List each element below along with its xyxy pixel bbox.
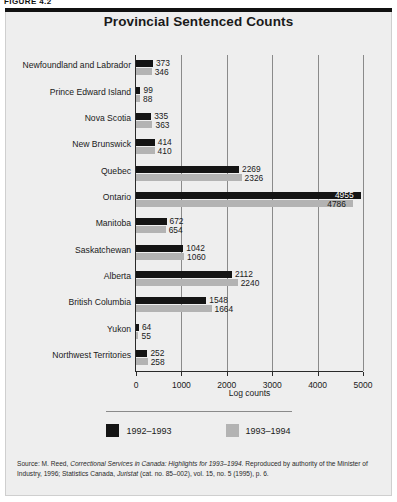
source-text: (cat. no. 85–002), vol. 15, no. 5 (1995)… bbox=[138, 470, 269, 477]
bar-value-label: 672 bbox=[170, 217, 184, 225]
x-tick bbox=[181, 372, 182, 376]
bar bbox=[136, 192, 361, 199]
bar bbox=[136, 68, 152, 75]
x-axis-line bbox=[135, 371, 363, 372]
bar bbox=[136, 324, 139, 331]
x-tick bbox=[363, 372, 364, 376]
bar bbox=[136, 87, 140, 94]
bar-value-label: 2326 bbox=[245, 174, 264, 182]
bar bbox=[136, 174, 242, 181]
chart-legend: 1992–19931993–1994 bbox=[0, 424, 397, 437]
category-label: Newfoundland and Labrador bbox=[0, 60, 131, 70]
category-label: Ontario bbox=[0, 192, 131, 202]
bar bbox=[136, 358, 148, 365]
source-note: Source: M. Reed, Correctional Services i… bbox=[17, 459, 375, 478]
bar bbox=[136, 60, 153, 67]
bar bbox=[136, 139, 155, 146]
source-text: Source: M. Reed, bbox=[17, 460, 70, 467]
bar bbox=[136, 95, 140, 102]
legend-label: 1993–1994 bbox=[246, 426, 291, 436]
bar-value-label: 55 bbox=[141, 332, 150, 340]
bar-group: Northwest Territories252258 bbox=[136, 350, 363, 366]
legend-item: 1993–1994 bbox=[226, 424, 291, 437]
bar-group: Ontario49554786 bbox=[136, 192, 363, 208]
bar-value-label: 4786 bbox=[327, 200, 346, 208]
bar-value-label: 1060 bbox=[187, 253, 206, 261]
source-title: Correctional Services in Canada: Highlig… bbox=[70, 460, 243, 467]
bar-value-label: 1664 bbox=[215, 305, 234, 313]
bar-value-label: 2240 bbox=[241, 279, 260, 287]
category-label: British Columbia bbox=[0, 297, 131, 307]
bar-group: New Brunswick414410 bbox=[136, 139, 363, 155]
bar-group: Yukon6455 bbox=[136, 324, 363, 340]
bar-group: Manitoba672654 bbox=[136, 218, 363, 234]
figure-caption: FIGURE 4.2 bbox=[4, 0, 52, 4]
gridline bbox=[363, 55, 364, 371]
legend-item: 1992–1993 bbox=[106, 424, 171, 437]
bar-value-label: 2269 bbox=[242, 165, 261, 173]
bar bbox=[136, 226, 166, 233]
category-label: Prince Edward Island bbox=[0, 87, 131, 97]
bar-value-label: 64 bbox=[142, 323, 151, 331]
bar-group: Quebec22692326 bbox=[136, 166, 363, 182]
bar bbox=[136, 271, 232, 278]
bar bbox=[136, 350, 147, 357]
category-label: Alberta bbox=[0, 271, 131, 281]
bar-group: Prince Edward Island9988 bbox=[136, 87, 363, 103]
bar-value-label: 258 bbox=[151, 358, 165, 366]
bar-value-label: 99 bbox=[143, 86, 152, 94]
bar-group: Alberta21122240 bbox=[136, 271, 363, 287]
x-tick bbox=[227, 372, 228, 376]
bar-value-label: 414 bbox=[158, 138, 172, 146]
bar-value-label: 373 bbox=[156, 59, 170, 67]
category-label: Nova Scotia bbox=[0, 113, 131, 123]
bar-value-label: 335 bbox=[154, 112, 168, 120]
bar bbox=[136, 113, 151, 120]
bar-group: British Columbia15481664 bbox=[136, 297, 363, 313]
legend-swatch bbox=[106, 424, 119, 437]
bar-value-label: 363 bbox=[155, 121, 169, 129]
x-tick bbox=[272, 372, 273, 376]
legend-divider bbox=[106, 411, 292, 412]
bar-value-label: 4955 bbox=[335, 191, 354, 199]
bar-value-label: 654 bbox=[169, 226, 183, 234]
chart-title: Provincial Sentenced Counts bbox=[0, 14, 397, 29]
bar-value-label: 2112 bbox=[235, 270, 253, 278]
x-axis-label: Log counts bbox=[136, 388, 363, 398]
category-label: Quebec bbox=[0, 166, 131, 176]
bar bbox=[136, 200, 353, 207]
bar bbox=[136, 166, 239, 173]
bar-value-label: 252 bbox=[150, 349, 164, 357]
bar bbox=[136, 305, 212, 312]
plot-area: 010002000300040005000Newfoundland and La… bbox=[136, 55, 363, 371]
bar-value-label: 88 bbox=[143, 95, 152, 103]
bar bbox=[136, 253, 184, 260]
panel-top-rule bbox=[5, 8, 392, 12]
category-label: Saskatchewan bbox=[0, 245, 131, 255]
bar bbox=[136, 245, 183, 252]
bar-value-label: 1042 bbox=[186, 244, 205, 252]
category-label: Manitoba bbox=[0, 218, 131, 228]
bar bbox=[136, 332, 138, 339]
source-title: Juristat bbox=[117, 470, 138, 477]
bar bbox=[136, 147, 155, 154]
bar bbox=[136, 279, 238, 286]
bar-value-label: 410 bbox=[158, 147, 172, 155]
bar bbox=[136, 218, 167, 225]
category-label: Northwest Territories bbox=[0, 350, 131, 360]
bar-group: Saskatchewan10421060 bbox=[136, 245, 363, 261]
bar-group: Nova Scotia335363 bbox=[136, 113, 363, 129]
bar-value-label: 346 bbox=[155, 68, 169, 76]
bar bbox=[136, 297, 206, 304]
x-tick bbox=[318, 372, 319, 376]
bar bbox=[136, 121, 152, 128]
legend-swatch bbox=[226, 424, 239, 437]
category-label: New Brunswick bbox=[0, 139, 131, 149]
bar-group: Newfoundland and Labrador373346 bbox=[136, 60, 363, 76]
category-label: Yukon bbox=[0, 324, 131, 334]
bar-value-label: 1548 bbox=[209, 296, 228, 304]
x-tick bbox=[136, 372, 137, 376]
legend-label: 1992–1993 bbox=[126, 426, 171, 436]
